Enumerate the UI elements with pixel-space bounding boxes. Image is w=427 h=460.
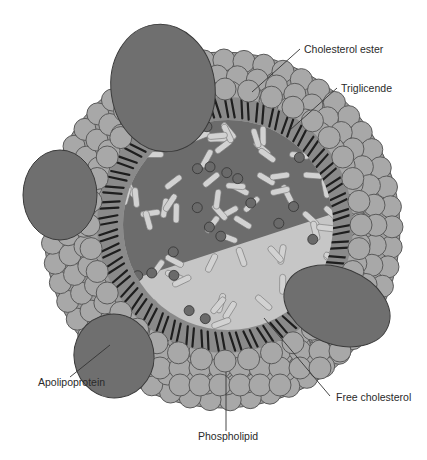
apolipoprotein-left [23,150,97,240]
lipoprotein-diagram: Cholesterol ester Triglicende Apolipopro… [0,0,427,460]
label-free-cholesterol: Free cholesterol [336,391,411,403]
label-cholesterol-ester: Cholesterol ester [304,43,384,55]
label-phospholipid: Phospholipid [198,430,258,442]
label-triglyceride: Triglicende [341,82,392,94]
label-apolipoprotein: Apolipoprotein [38,376,105,388]
